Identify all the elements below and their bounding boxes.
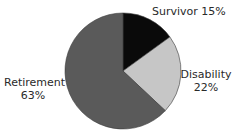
pie-chart [0, 0, 232, 134]
survivor-name: Survivor [152, 5, 198, 18]
retirement-value: 63% [4, 89, 62, 102]
retirement-name: Retirement [4, 76, 62, 89]
slice-label-disability: Disability 22% [180, 68, 232, 94]
slice-label-survivor: Survivor 15% [152, 5, 226, 18]
disability-name: Disability [180, 68, 232, 81]
survivor-value: 15% [201, 5, 225, 18]
disability-value: 22% [180, 81, 232, 94]
slice-label-retirement: Retirement 63% [4, 76, 62, 102]
pie-slices [65, 13, 181, 129]
